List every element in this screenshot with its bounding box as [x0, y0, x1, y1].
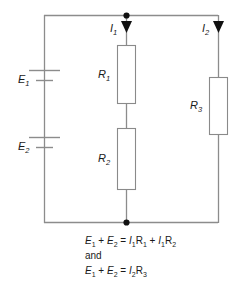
- equation-conjunction: and: [85, 251, 102, 261]
- current-i2-arrow-icon: [213, 21, 224, 33]
- resistor-r1-label: R1: [98, 69, 110, 80]
- resistor-r3-box: [210, 78, 228, 135]
- equation-line-1: E1 + E2 = I1R1 + I1R2: [85, 236, 176, 246]
- junction-dot-bottom: [123, 219, 129, 225]
- resistor-r3-label: R3: [190, 100, 202, 111]
- resistor-r1-box: [118, 46, 136, 104]
- current-i1-arrow-icon: [121, 21, 132, 33]
- resistor-r2-box: [118, 129, 136, 190]
- current-i1-label: I1: [110, 23, 117, 34]
- resistor-r2-label: R2: [98, 153, 110, 164]
- current-i2-label: I2: [202, 23, 209, 34]
- junction-dot-top: [123, 12, 129, 18]
- equation-line-2: E1 + E2 = I2R3: [85, 266, 147, 276]
- circuit-schematic: [0, 0, 243, 301]
- circuit-diagram-canvas: E1 E2 R1 R2 R3 I1 I2 E1 + E2 = I1R1 + I1…: [0, 0, 243, 301]
- battery-e2-label: E2: [18, 141, 30, 152]
- battery-e1-label: E1: [18, 74, 30, 85]
